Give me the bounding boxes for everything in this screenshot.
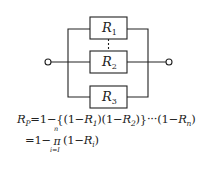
formula-text: (1− (63, 133, 84, 147)
formula-symbol: R (84, 112, 92, 126)
formula-text: )(1− (97, 112, 122, 126)
formula-symbol: R (122, 112, 130, 126)
formula-text: )}···(1− (136, 112, 179, 126)
formula-line-1: RP=1−{(1−R1)(1−R2)}···(1−Rn) (17, 112, 196, 128)
right-bus-wire (127, 29, 148, 97)
formula-text: ) (95, 133, 99, 147)
formula-text: =1−{(1− (30, 112, 84, 126)
product-upper-limit: n (54, 125, 58, 133)
formula-text: =1− (25, 133, 51, 147)
left-terminal-icon (45, 59, 51, 65)
left-bus-wire (68, 29, 90, 97)
product-operator: nπi=I (51, 134, 63, 148)
formula-symbol: R (178, 112, 186, 126)
right-terminal-icon (166, 59, 172, 65)
formula-text: ) (191, 112, 195, 126)
formula-line-2: =1−nπi=I(1−Ri) (25, 133, 99, 149)
product-lower-limit: i=I (50, 146, 60, 154)
